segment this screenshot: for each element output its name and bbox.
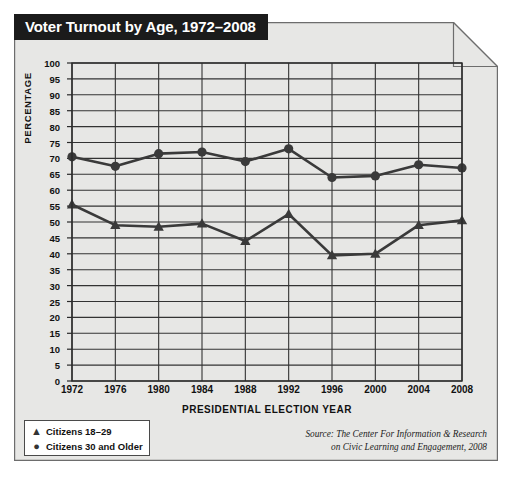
data-point-circle <box>327 173 336 182</box>
source-line-1: Source: The Center For Information & Res… <box>305 428 487 441</box>
data-point-circle <box>284 144 293 153</box>
data-point-circle <box>414 160 423 169</box>
y-tick-label: 100 <box>34 58 60 69</box>
triangle-icon: ▲ <box>30 426 43 437</box>
y-tick-label: 5 <box>34 360 60 371</box>
data-point-circle <box>154 149 163 158</box>
legend-item-older: ● Citizens 30 and Older <box>30 439 149 454</box>
data-point-triangle <box>284 209 294 218</box>
x-tick-label: 2008 <box>437 384 487 395</box>
source-line-2: on Civic Learning and Engagement, 2008 <box>305 441 487 454</box>
page-title: Voter Turnout by Age, 1972–2008 <box>14 14 268 40</box>
y-tick-label: 40 <box>34 248 60 259</box>
series-line-2 <box>72 205 462 256</box>
y-tick-label: 20 <box>34 312 60 323</box>
y-tick-label: 90 <box>34 89 60 100</box>
y-tick-label: 55 <box>34 201 60 212</box>
circle-icon: ● <box>30 441 43 452</box>
data-point-circle <box>111 162 120 171</box>
y-tick-label: 25 <box>34 296 60 307</box>
y-tick-label: 35 <box>34 264 60 275</box>
y-tick-label: 15 <box>34 328 60 339</box>
data-point-circle <box>241 157 250 166</box>
y-tick-label: 50 <box>34 217 60 228</box>
data-point-circle <box>371 171 380 180</box>
y-tick-label: 45 <box>34 232 60 243</box>
y-tick-label: 30 <box>34 280 60 291</box>
grid-lines <box>67 63 462 381</box>
y-tick-label: 60 <box>34 185 60 196</box>
chart-plot-area: PERCENTAGE PRESIDENTIAL ELECTION YEAR 05… <box>0 0 515 488</box>
legend-label-youth: Citizens 18–29 <box>46 426 111 437</box>
series-line-1 <box>72 149 462 178</box>
chart-legend: ▲ Citizens 18–29 ● Citizens 30 and Older <box>24 420 150 456</box>
y-tick-label: 10 <box>34 344 60 355</box>
y-tick-label: 85 <box>34 105 60 116</box>
data-point-circle <box>197 147 206 156</box>
y-tick-label: 80 <box>34 121 60 132</box>
y-tick-label: 70 <box>34 153 60 164</box>
chart-canvas <box>0 0 515 488</box>
source-note: Source: The Center For Information & Res… <box>305 428 487 455</box>
legend-label-older: Citizens 30 and Older <box>46 441 143 452</box>
y-tick-label: 75 <box>34 137 60 148</box>
legend-item-youth: ▲ Citizens 18–29 <box>30 424 149 439</box>
y-tick-label: 65 <box>34 169 60 180</box>
series-lines <box>67 144 467 259</box>
y-tick-label: 95 <box>34 73 60 84</box>
